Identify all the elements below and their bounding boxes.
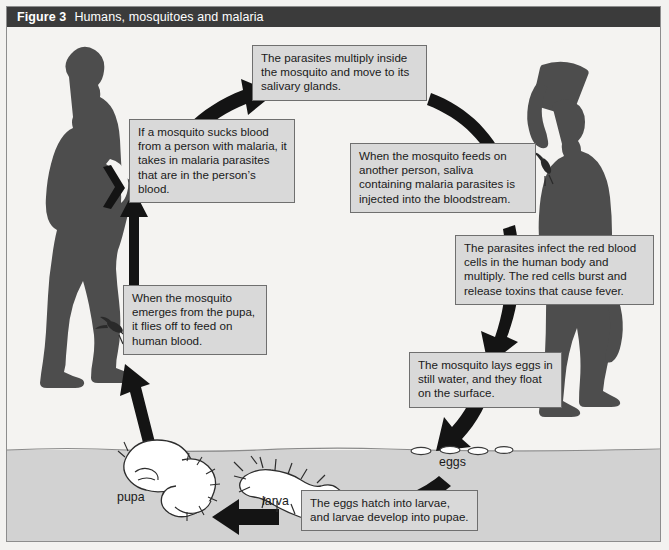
callout-text: The parasites multiply inside the mosqui… <box>261 51 409 92</box>
callout-eggs-hatch: The eggs hatch into larvae, and larvae d… <box>301 490 478 531</box>
callout-parasites-infect-red-cells: The parasites infect the red blood cells… <box>455 235 654 305</box>
figure-title: Humans, mosquitoes and malaria <box>74 10 263 24</box>
figure-number: Figure 3 <box>17 10 66 24</box>
callout-parasites-multiply: The parasites multiply inside the mosqui… <box>252 45 427 101</box>
figure-canvas: The parasites multiply inside the mosqui… <box>7 27 660 541</box>
callout-text: When the mosquito feeds on another perso… <box>359 149 515 205</box>
callout-mosquito-lays-eggs: The mosquito lays eggs in still water, a… <box>409 352 562 408</box>
callout-text: The mosquito lays eggs in still water, a… <box>418 358 553 399</box>
callout-text: The eggs hatch into larvae, and larvae d… <box>310 496 469 523</box>
stage-label-larva: larva <box>262 494 289 508</box>
stage-label-pupa: pupa <box>117 490 145 504</box>
callout-text: The parasites infect the red blood cells… <box>464 241 636 297</box>
callout-text: When the mosquito emerges from the pupa,… <box>132 291 255 347</box>
callout-mosquito-sucks-blood: If a mosquito sucks blood from a person … <box>129 119 295 203</box>
stage-label-eggs: eggs <box>439 455 466 469</box>
callout-mosquito-feeds-another: When the mosquito feeds on another perso… <box>350 143 536 213</box>
figure-root: Figure 3 Humans, mosquitoes and malaria <box>0 0 669 550</box>
callout-text: If a mosquito sucks blood from a person … <box>138 125 287 195</box>
person-right-raised-arm <box>527 82 548 148</box>
figure-title-bar: Figure 3 Humans, mosquitoes and malaria <box>7 7 660 27</box>
callout-mosquito-emerges: When the mosquito emerges from the pupa,… <box>123 285 267 355</box>
